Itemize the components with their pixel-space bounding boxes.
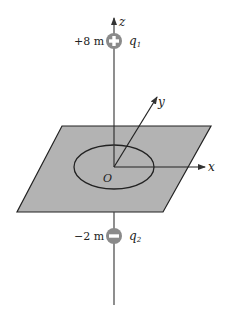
origin-label: O — [103, 172, 112, 185]
q2-position-label: −2 m — [74, 230, 105, 243]
diagram-canvas: z y x O +8 m q1 −2 m q2 — [0, 0, 228, 323]
q1-name-label: q1 — [129, 34, 141, 49]
y-axis-label: y — [157, 95, 165, 109]
q2-name-label: q2 — [129, 229, 142, 244]
charge-q1 — [106, 33, 122, 49]
x-axis-label: x — [208, 160, 215, 174]
q1-position-label: +8 m — [74, 35, 105, 48]
charge-q2 — [106, 228, 122, 244]
z-axis-label: z — [118, 15, 126, 29]
